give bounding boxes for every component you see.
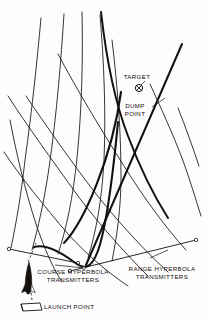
range-leader xyxy=(150,250,168,258)
launch-point-label: LAUNCH POINT xyxy=(44,303,114,311)
launch-pad-platform xyxy=(21,303,42,311)
course-hyperbola-curve-4 xyxy=(11,18,41,248)
course-baseline xyxy=(9,249,78,263)
trajectory-outbound xyxy=(34,122,118,267)
course-hyperbola-curve-3 xyxy=(88,15,105,258)
target-label: TARGET xyxy=(116,73,158,81)
course-hyperbola-transmitters-label: COURSE HYPERBOLA TRANSMITTERS xyxy=(31,268,115,283)
dump-point-label: DUMP POINT xyxy=(117,102,153,117)
range-transmitter-node-right xyxy=(194,238,197,241)
course-hyperbola-curve-1 xyxy=(32,14,64,250)
missile-fin-right xyxy=(31,284,35,293)
launch-pad-icon xyxy=(21,303,42,311)
course-hyperbola-curve-6 xyxy=(10,120,62,282)
range-hyperbola-transmitters-label: RANGE HYPERBOLA TRANSMITTERS xyxy=(121,265,203,280)
missile-fin-left xyxy=(22,284,26,293)
target-marker xyxy=(135,84,142,91)
range-hyperbola-curve-5 xyxy=(178,108,199,166)
figure-canvas: TARGET DUMP POINT COURSE HYPERBOLA TRANS… xyxy=(0,0,209,321)
course-transmitter-node-left xyxy=(7,247,10,250)
